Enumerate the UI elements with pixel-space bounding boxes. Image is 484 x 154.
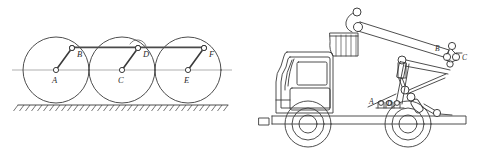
crane-boom xyxy=(346,8,449,58)
boom-head-pin xyxy=(353,8,361,16)
bc-link-2 xyxy=(452,50,456,54)
engineering-figure: A B C D E F xyxy=(0,0,484,154)
joint-label-a: A xyxy=(368,97,374,106)
pin-upper-right xyxy=(448,42,455,49)
boom-pivot-pin xyxy=(354,23,363,32)
pin-b-top xyxy=(69,45,74,50)
joint-label-c: C xyxy=(462,53,468,62)
pin-f-top xyxy=(201,45,206,50)
joint-label-b: B xyxy=(435,44,440,53)
ground-hatching xyxy=(14,105,229,111)
pin-d-top xyxy=(135,45,140,50)
lower-cylinder-end-pin xyxy=(433,109,440,116)
crank-ab xyxy=(56,48,72,70)
pin-c xyxy=(119,67,124,72)
secondary-arm-bottom xyxy=(405,66,448,74)
label-c: C xyxy=(118,75,124,85)
bc-joint-cluster xyxy=(443,42,462,67)
left-panel: A B C D E F xyxy=(12,37,232,111)
pin-e xyxy=(185,67,190,72)
joint-label-d: D xyxy=(386,99,393,108)
label-d: D xyxy=(142,49,150,59)
lower-cylinder-tie xyxy=(440,114,452,115)
pin-a xyxy=(53,67,58,72)
pin-d2-right xyxy=(395,101,400,106)
crank-ef xyxy=(188,48,204,70)
chassis-rail xyxy=(272,116,466,124)
label-b: B xyxy=(77,49,82,59)
hydraulic-cylinder-lower xyxy=(407,93,452,117)
label-a: A xyxy=(51,75,58,85)
cab-body xyxy=(276,52,333,113)
lower-tie-link xyxy=(409,74,446,90)
bucket-hatching xyxy=(336,35,356,56)
right-panel: A B C D xyxy=(259,8,468,147)
front-bumper xyxy=(259,118,269,125)
truck-chassis xyxy=(259,116,466,125)
lower-cylinder-barrel xyxy=(410,98,424,114)
truck-cab xyxy=(276,52,333,113)
secondary-arm-top xyxy=(406,60,450,70)
crank-cd xyxy=(122,48,138,70)
pin-c-right xyxy=(452,53,459,60)
pin-b-right xyxy=(443,53,450,60)
figure-root: A B C D E F xyxy=(0,0,484,154)
label-e: E xyxy=(183,75,190,85)
ground xyxy=(14,105,229,111)
lower-tie-link-2 xyxy=(407,78,445,94)
cab-window xyxy=(297,62,327,85)
label-f: F xyxy=(208,49,215,59)
cab-front-curve xyxy=(285,60,292,90)
crane-bucket xyxy=(330,33,358,56)
secondary-arm xyxy=(405,60,450,94)
cab-door-panel xyxy=(290,88,330,110)
